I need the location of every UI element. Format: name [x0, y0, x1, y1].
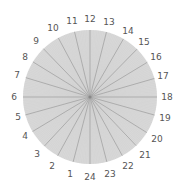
hour-label: 12: [84, 14, 95, 24]
hour-label: 17: [157, 71, 168, 81]
hour-label: 5: [15, 112, 21, 122]
hour-dial-diagram: 123456789101112131415161718192021222324: [0, 0, 186, 194]
hour-label: 20: [151, 134, 163, 144]
hour-label: 16: [150, 52, 162, 62]
hour-label: 11: [66, 16, 77, 26]
hour-label: 4: [22, 131, 28, 141]
hour-label: 19: [159, 113, 171, 123]
hour-label: 3: [34, 149, 40, 159]
hour-label: 22: [122, 161, 133, 171]
hour-label: 1: [67, 169, 73, 179]
hour-label: 9: [33, 36, 39, 46]
hour-label: 24: [84, 172, 96, 182]
hour-label: 15: [138, 37, 149, 47]
hour-label: 7: [14, 70, 20, 80]
hour-label: 14: [122, 26, 134, 36]
hour-label: 21: [139, 150, 150, 160]
hour-label: 10: [47, 23, 59, 33]
hour-label: 18: [161, 92, 173, 102]
hour-label: 6: [11, 92, 17, 102]
hour-label: 13: [103, 17, 114, 27]
hour-label: 8: [22, 52, 28, 62]
center-hub: [88, 95, 91, 98]
hour-label: 2: [49, 161, 55, 171]
hour-label: 23: [104, 169, 115, 179]
